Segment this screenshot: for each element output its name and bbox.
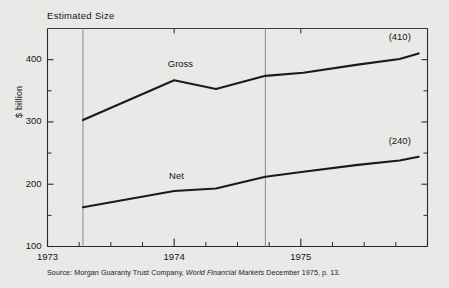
source-prefix: Source: Morgan Guaranty Trust Company, (47, 268, 184, 277)
source-suffix: December 1975, p. 13. (266, 268, 340, 277)
endpoint-label-gross: (410) (389, 31, 411, 42)
x-tick-label: 1974 (154, 251, 194, 262)
x-tick-label: 1975 (281, 251, 321, 262)
series-label-net: Net (169, 170, 184, 181)
plot-area (0, 0, 449, 288)
x-tick-label: 1973 (28, 251, 68, 262)
source-note: Source: Morgan Guaranty Trust Company, W… (47, 268, 340, 277)
y-tick-label: 300 (16, 115, 42, 126)
y-tick-label: 400 (16, 53, 42, 64)
chart-figure: Estimated Size $ billion 100200300400 19… (0, 0, 449, 288)
source-publication: World Financial Markets (186, 268, 264, 277)
series-line-gross (83, 53, 419, 120)
y-tick-label: 100 (16, 240, 42, 251)
endpoint-label-net: (240) (389, 135, 411, 146)
series-line-net (83, 157, 419, 207)
series-label-gross: Gross (168, 58, 193, 69)
y-tick-label: 200 (16, 178, 42, 189)
